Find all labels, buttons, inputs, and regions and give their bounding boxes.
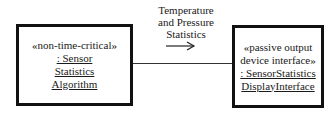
stereotype: device interface» bbox=[240, 54, 315, 67]
message-line: and Pressure bbox=[136, 16, 236, 28]
object-name-line: : Sensor bbox=[57, 52, 93, 65]
object-name-line: Statistics bbox=[55, 65, 95, 78]
object-name-line: DisplayInterface bbox=[241, 80, 314, 93]
object-name-line: : SensorStatistics bbox=[240, 67, 315, 80]
sensor-statistics-display-interface-object[interactable]: «passive output device interface» : Sens… bbox=[232, 25, 324, 108]
message-line: Temperature bbox=[136, 4, 236, 16]
sensor-statistics-algorithm-object[interactable]: «non-time-critical» : Sensor Statistics … bbox=[16, 24, 133, 106]
object-name-line: Algorithm bbox=[52, 78, 98, 91]
stereotype: «non-time-critical» bbox=[32, 39, 117, 52]
stereotype: «passive output bbox=[244, 41, 313, 54]
message-label: Temperature and Pressure Statistics bbox=[136, 4, 236, 40]
right-arrow-icon bbox=[166, 40, 196, 52]
message-line: Statistics bbox=[136, 28, 236, 40]
association-line bbox=[133, 63, 232, 64]
